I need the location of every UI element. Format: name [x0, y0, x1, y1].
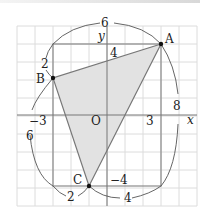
dim-bottom-2: 2	[67, 190, 75, 204]
label-x-axis: x	[187, 113, 194, 127]
label-y-axis: y	[97, 29, 105, 43]
tick-y-neg4: −4	[110, 173, 128, 187]
point-c	[87, 184, 91, 188]
dim-right-8: 8	[173, 99, 181, 113]
point-b	[51, 76, 55, 80]
tick-x-3: 3	[146, 114, 154, 128]
tick-x-neg3: −3	[29, 114, 47, 128]
label-a: A	[164, 32, 174, 46]
dim-left-2: 2	[41, 57, 49, 71]
dim-bottom-4: 4	[124, 191, 132, 205]
label-b: B	[36, 72, 45, 86]
dim-left-6: 6	[26, 129, 34, 143]
label-origin: O	[91, 114, 101, 128]
coordinate-diagram: A B C O x y −3 3 4 −4 6 8 6 2 2 4	[0, 0, 210, 218]
point-a	[159, 42, 163, 46]
tick-y-4: 4	[110, 46, 118, 60]
label-c: C	[73, 173, 82, 187]
dim-top-6: 6	[101, 16, 109, 30]
